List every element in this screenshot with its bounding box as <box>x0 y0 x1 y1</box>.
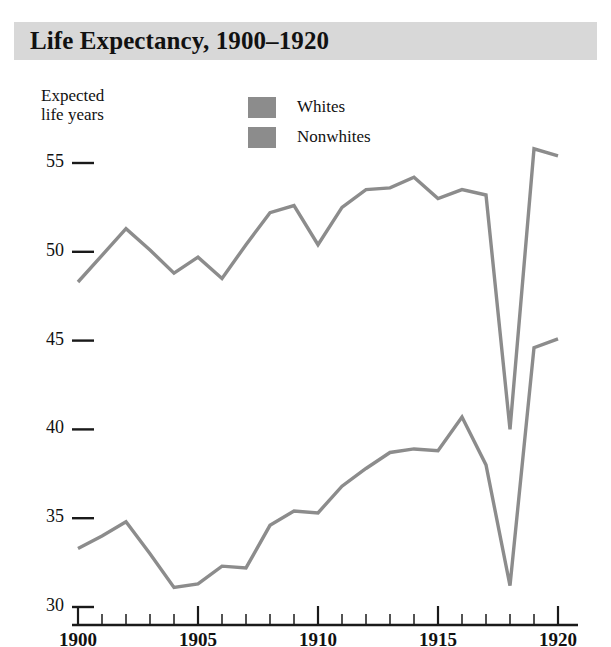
series-line-nonwhites <box>78 339 558 588</box>
y-tick-label: 30 <box>30 595 64 616</box>
y-tick-label: 45 <box>30 329 64 350</box>
x-tick-label: 1900 <box>43 629 113 647</box>
chart-figure: Life Expectancy, 1900–1920 Expected life… <box>0 0 611 647</box>
x-tick-label: 1920 <box>523 629 593 647</box>
series-line-whites <box>78 149 558 430</box>
plot-area <box>0 0 611 647</box>
x-tick-label: 1910 <box>283 629 353 647</box>
y-tick-label: 40 <box>30 417 64 438</box>
x-tick-label: 1915 <box>403 629 473 647</box>
y-tick-label: 55 <box>30 151 64 172</box>
y-tick-label: 50 <box>30 240 64 261</box>
x-tick-label: 1905 <box>163 629 233 647</box>
series-group <box>78 149 558 588</box>
y-tick-label: 35 <box>30 506 64 527</box>
